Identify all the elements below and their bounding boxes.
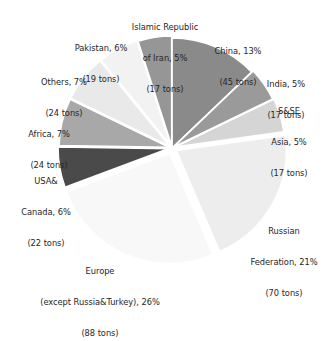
label-line-1: Europe	[6, 266, 194, 276]
label-line-1: S&SE	[250, 106, 328, 116]
slice-label-russian-federation: Russian Federation, 21% (70 tons)	[240, 205, 328, 319]
label-line-2: Asia, 5%	[250, 137, 328, 147]
label-line-1: Russian	[240, 226, 328, 236]
label-line-1: China, 13%	[196, 46, 280, 56]
label-line-1: Pakistan, 6%	[51, 43, 151, 53]
label-line-2: (except Russia&Turkey), 26%	[6, 297, 194, 307]
label-line-1: Others, 7%	[18, 77, 110, 87]
label-line-3: (17 tons)	[250, 168, 328, 178]
label-line-1: USA&	[0, 176, 92, 186]
label-line-3: (70 tons)	[240, 288, 328, 298]
label-line-2: Federation, 21%	[240, 257, 328, 267]
slice-label-europe: Europe (except Russia&Turkey), 26% (88 t…	[6, 245, 194, 341]
label-line-3: (88 tons)	[6, 328, 194, 338]
label-line-1: Africa, 7%	[4, 129, 94, 139]
label-line-2: Canada, 6%	[0, 207, 92, 217]
slice-label-s-and-se-asia: S&SE Asia, 5% (17 tons)	[250, 85, 328, 199]
